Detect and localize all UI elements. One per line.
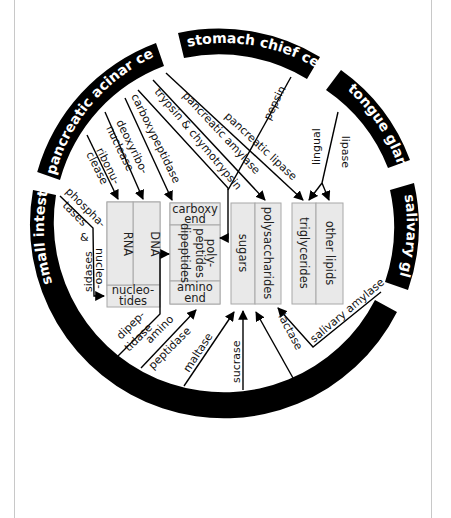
enzyme-lingual-lipase-2: lipase [339, 136, 352, 169]
substrate-rna: RNA [121, 232, 135, 257]
carbohydrate-box: sugars polysaccharides [231, 203, 281, 304]
nucleic-acid-box: RNA DNA nucleo- tides [107, 202, 162, 308]
substrate-amino-end-2: end [184, 291, 206, 305]
enzyme-lingual-lipase-1: lingual [310, 128, 323, 165]
substrate-polysaccharides: polysaccharides [261, 207, 275, 300]
substrate-polypeptides-2: peptides [193, 228, 207, 278]
enzyme-phosphatases-4: sidases [82, 251, 95, 292]
source-label-small-intestine: small intestine [0, 0, 55, 287]
substrate-dna: DNA [148, 231, 162, 256]
enzyme-pepsin: pepsin [261, 84, 289, 123]
substrate-dipeptides: dipeptides [178, 223, 192, 283]
substrate-triglycerides: triglycerides [297, 217, 311, 288]
protein-box: carboxy end dipeptides poly- peptides am… [170, 202, 220, 305]
enzyme-phosphatases-amp: & [80, 231, 89, 244]
enzyme-lactase: lactase [275, 311, 305, 352]
enzyme-sucrase: sucrase [230, 340, 243, 383]
substrate-other-lipids: other lipids [323, 221, 337, 285]
substrate-sugars: sugars [236, 234, 250, 272]
lipid-box: triglycerides other lipids [292, 203, 343, 304]
substrate-nucleotides-2: tides [119, 294, 147, 308]
